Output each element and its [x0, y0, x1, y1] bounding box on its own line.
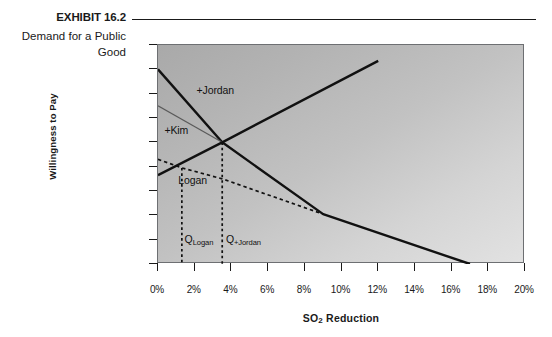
x-tick-label: 16% — [431, 284, 471, 295]
x-tick-mark — [487, 263, 488, 271]
x-tick-label: 12% — [357, 284, 397, 295]
x-tick-mark — [230, 263, 231, 271]
x-tick-label: 6% — [247, 284, 287, 295]
y-tick-mark — [149, 214, 157, 215]
y-tick-mark — [149, 117, 157, 118]
x-tick-mark — [341, 263, 342, 271]
annotation-jordan: +Jordan — [197, 84, 235, 96]
x-tick-mark — [304, 263, 305, 271]
y-tick-mark — [149, 44, 157, 45]
x-tick-label: 10% — [321, 284, 361, 295]
x-tick-mark — [451, 263, 452, 271]
y-tick-mark — [149, 190, 157, 191]
x-tick-label: 18% — [467, 284, 507, 295]
annotation-kim: +Kim — [164, 124, 188, 136]
series-line-marginal-cost-supply — [158, 61, 378, 175]
y-tick-mark — [149, 68, 157, 69]
annotation-q-logan: QLogan — [185, 233, 214, 247]
x-tick-label: 8% — [284, 284, 324, 295]
y-tick-mark — [149, 239, 157, 240]
x-axis-title: SO2 Reduction — [157, 312, 525, 325]
y-axis-title: Willingness to Pay — [47, 42, 58, 232]
y-tick-mark — [149, 166, 157, 167]
chart-figure: Willingness to Pay SO2 Reduction +Jordan… — [0, 0, 552, 337]
x-tick-mark — [524, 263, 525, 271]
x-tick-label: 0% — [137, 284, 177, 295]
y-tick-mark — [149, 263, 157, 264]
x-tick-label: 14% — [394, 284, 434, 295]
y-tick-mark — [149, 141, 157, 142]
x-tick-label: 4% — [210, 284, 250, 295]
x-tick-mark — [157, 263, 158, 271]
x-tick-label: 20% — [504, 284, 544, 295]
x-tick-label: 2% — [174, 284, 214, 295]
series-line-logan — [158, 159, 323, 214]
x-tick-mark — [414, 263, 415, 271]
x-tick-mark — [194, 263, 195, 271]
annotation-q-jordan: Q+Jordan — [226, 233, 261, 247]
plot-area: +Jordan+KimLoganQLoganQ+Jordan — [157, 44, 524, 263]
plot-lines — [158, 45, 525, 264]
y-tick-mark — [149, 93, 157, 94]
x-tick-mark — [267, 263, 268, 271]
x-tick-mark — [377, 263, 378, 271]
annotation-logan: Logan — [178, 174, 207, 186]
